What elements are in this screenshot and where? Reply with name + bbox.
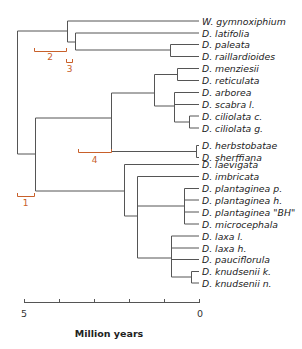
annotation-brackets [18,48,112,197]
leaf-label: D. plantaginea h. [202,195,282,206]
leaf-label: D. herbstobatae [202,140,278,151]
leaf-label: D. knudsenii k. [202,266,271,277]
leaf-label: D. menziesii [202,63,259,74]
leaf-label: D. knudsenii n. [202,278,272,289]
leaf-label: D. laxa h. [202,243,246,254]
leaf-label: D. plantaginea p. [202,183,282,194]
axis-end-label: 0 [197,308,203,319]
bracket-1 [18,193,35,197]
leaf-label: D. pauciflorula [202,254,270,265]
leaf-labels: W. gymnoxiphium D. latifolia D. paleata … [202,16,295,289]
leaf-label: D. reticulata [202,75,260,86]
bracket-2 [35,48,67,52]
leaf-label: D. scabra l. [202,99,255,110]
leaf-label: D. laevigata [202,159,258,170]
leaf-label: D. microcephala [202,219,278,230]
leaf-label: D. laxa l. [202,231,243,242]
axis-start-label: 5 [21,308,27,319]
leaf-label: D. latifolia [202,28,250,39]
leaf-label: W. gymnoxiphium [202,16,286,27]
leaf-label: D. imbricata [202,171,259,182]
bracket-label-2: 2 [47,52,53,62]
leaf-label: D. paleata [202,39,250,50]
bracket-label-4: 4 [92,155,98,165]
bracket-label-3: 3 [67,64,73,74]
bracket-labels: 1 2 3 4 [23,52,98,208]
leaf-label: D. arborea [202,87,252,98]
leaf-label: D. ciliolata g. [202,123,263,134]
phylogenetic-tree: W. gymnoxiphium D. latifolia D. paleata … [0,0,302,349]
leaf-label: D. plantaginea "BH" [202,207,295,218]
leaf-label: D. ciliolata c. [202,111,262,122]
bracket-4 [79,149,112,153]
bracket-label-1: 1 [23,198,29,208]
leaf-label: D. raillardioides [202,51,275,62]
bracket-3 [67,59,73,63]
axis-title: Million years [75,328,144,339]
time-axis [24,299,200,303]
